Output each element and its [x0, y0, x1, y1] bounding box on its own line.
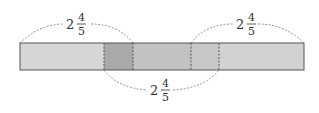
label-top-right: 2 4 5: [236, 11, 256, 38]
numerator: 4: [248, 11, 255, 24]
label-bottom: 2 4 5: [150, 77, 170, 104]
denominator: 5: [78, 25, 85, 38]
denominator: 5: [248, 25, 255, 38]
segment-overlap-right: [191, 43, 219, 70]
whole-number: 2: [66, 17, 74, 32]
segment-overlap-dark: [104, 43, 133, 70]
segment-right: [219, 43, 304, 70]
whole-number: 2: [236, 17, 244, 32]
numerator: 4: [162, 77, 169, 90]
segment-middle: [133, 43, 191, 70]
arc-top-left: [20, 24, 133, 43]
tape-diagram: 2 4 5 2 4 5 2 4 5: [0, 0, 319, 113]
whole-number: 2: [150, 83, 158, 98]
denominator: 5: [162, 91, 169, 104]
segment-left: [20, 43, 104, 70]
label-top-left: 2 4 5: [66, 11, 86, 38]
numerator: 4: [78, 11, 85, 24]
